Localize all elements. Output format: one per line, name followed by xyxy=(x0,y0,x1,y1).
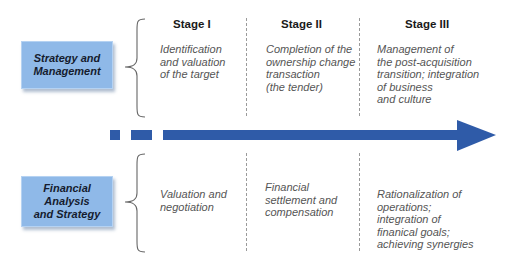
timeline-arrow-icon xyxy=(0,0,509,259)
